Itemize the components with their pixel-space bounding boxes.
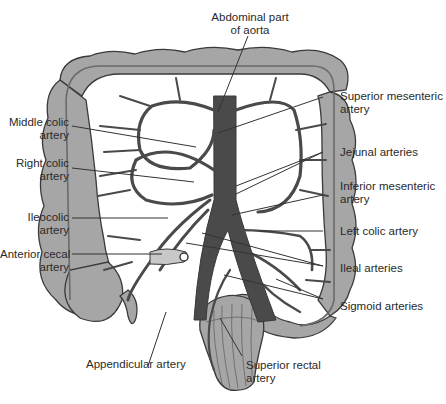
label-right-colic-artery: Right colic artery (0, 157, 69, 183)
label-left-colic-artery: Left colic artery (340, 225, 418, 238)
label-anterior-cecal-artery: Anterior cecal artery (0, 248, 69, 274)
anterior-cecal-stub (150, 249, 188, 265)
label-middle-colic-artery: Middle colic artery (0, 116, 69, 142)
colon (38, 47, 356, 390)
label-ileal-arteries: Ileal arteries (340, 262, 403, 275)
label-superior-rectal-artery: Superior rectal artery (246, 359, 321, 385)
cecum (65, 262, 123, 321)
transverse-colon (60, 47, 348, 96)
label-jejunal-arteries: Jejunal arteries (340, 146, 418, 159)
label-sigmoid-arteries: Sigmoid arteries (340, 300, 423, 313)
aorta (194, 96, 276, 322)
label-inferior-mesenteric-artery: Inferior mesenteric artery (340, 180, 435, 206)
label-abdominal-aorta: Abdominal part of aorta (196, 11, 304, 37)
label-superior-mesenteric-artery: Superior mesenteric artery (340, 90, 443, 116)
label-ileocolic-artery: Ileocolic artery (0, 211, 69, 237)
label-appendicular-artery: Appendicular artery (86, 358, 186, 371)
